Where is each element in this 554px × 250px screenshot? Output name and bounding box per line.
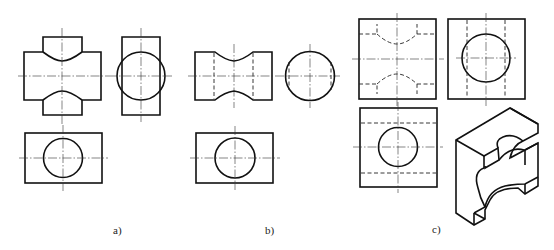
panel-c-side-view <box>448 13 525 106</box>
panel-c-isometric-view <box>456 108 538 225</box>
panel-a-top-view <box>19 125 108 191</box>
panel-c-caption: c) <box>432 223 441 235</box>
panel-a-side-view <box>108 28 172 122</box>
panel-a <box>18 28 172 191</box>
panel-c-front-view <box>352 13 444 106</box>
panel-b-front-view <box>188 44 340 108</box>
panel-c-top-view <box>353 102 443 193</box>
panel-a-front-view <box>18 28 108 125</box>
panel-b-top-view <box>190 126 280 190</box>
panel-b-caption: b) <box>265 224 274 236</box>
engineering-drawing-figure <box>0 0 554 250</box>
panel-b <box>188 44 340 190</box>
panel-c <box>352 13 538 225</box>
panel-a-caption: a) <box>113 224 122 236</box>
